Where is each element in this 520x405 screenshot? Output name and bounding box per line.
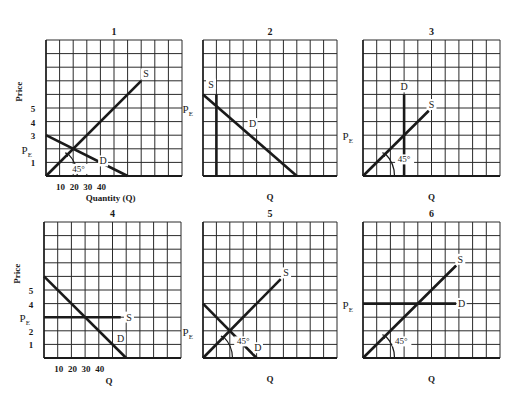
x-tick-label: 20: [70, 182, 80, 192]
supply-label: S: [457, 254, 463, 265]
supply-curve: [46, 81, 141, 176]
supply-label: S: [126, 312, 132, 323]
panel-1: 145°SD543PE1Price10203040Quantity (Q): [14, 26, 182, 203]
x-tick-label: 10: [54, 364, 64, 374]
x-axis-label: Q: [266, 374, 273, 384]
panel-title: 6: [429, 208, 434, 219]
angle-arc-icon: [385, 154, 394, 176]
x-tick-label: 40: [95, 364, 105, 374]
demand-label: D: [400, 81, 407, 92]
x-tick-label: 40: [97, 182, 107, 192]
panel-5: 545°SDPEQ: [183, 208, 337, 384]
panel-2: 2SDPEQ: [183, 26, 337, 202]
y-axis-label: Price: [14, 82, 24, 102]
supply-label: S: [208, 79, 214, 90]
pe-label: PE: [22, 144, 32, 159]
supply-curve: [363, 111, 429, 176]
angle-arc-icon: [224, 337, 233, 358]
x-axis-label: Quantity (Q): [86, 193, 136, 203]
panel-title: 3: [429, 26, 434, 37]
y-tick-label: 5: [31, 104, 36, 114]
demand-label: D: [117, 333, 124, 344]
panel-title: 5: [268, 208, 273, 219]
angle-label: 45°: [72, 164, 85, 174]
angle-label: 45°: [237, 336, 250, 346]
grid: [203, 40, 337, 176]
x-tick-label: 30: [83, 182, 93, 192]
angle-label: 45°: [395, 336, 408, 346]
demand-label: D: [100, 155, 107, 166]
x-tick-label: 30: [82, 364, 92, 374]
panel-3: 345°SDPEQ: [343, 26, 500, 202]
demand-label: D: [458, 298, 465, 309]
y-tick-label: 5: [29, 286, 34, 296]
grid: [44, 222, 181, 358]
pe-subscript: E: [189, 333, 193, 341]
supply-label: S: [429, 99, 435, 110]
pe-label: PE: [343, 130, 353, 145]
pe-label: PE: [183, 326, 193, 341]
y-axis-label: Price: [12, 264, 22, 284]
angle-label: 45°: [398, 154, 411, 164]
panel-title: 1: [112, 26, 117, 37]
supply-label: S: [283, 267, 289, 278]
x-tick-label: 10: [56, 182, 66, 192]
panel-6: 645°SDPEQ: [343, 208, 500, 384]
pe-subscript: E: [349, 306, 353, 314]
y-tick-label: 1: [31, 158, 36, 168]
pe-subscript: E: [349, 137, 353, 145]
x-axis-label: Q: [266, 192, 273, 202]
y-tick-label: 1: [29, 340, 34, 350]
x-axis-label: Q: [428, 374, 435, 384]
y-tick-label: 3: [31, 131, 36, 141]
x-tick-label: 20: [68, 364, 78, 374]
panel-title: 2: [268, 26, 273, 37]
x-axis-label: Q: [428, 192, 435, 202]
y-tick-label: 4: [31, 118, 36, 128]
y-tick-label: 4: [29, 300, 34, 310]
y-tick-label: 2: [29, 327, 34, 337]
figure-six-supply-demand-panels: 145°SD543PE1Price10203040Quantity (Q)2SD…: [0, 0, 520, 405]
demand-label: D: [254, 342, 261, 353]
pe-label: PE: [20, 312, 30, 327]
pe-label: PE: [183, 103, 193, 118]
pe-label: PE: [343, 299, 353, 314]
figure-canvas: 145°SD543PE1Price10203040Quantity (Q)2SD…: [0, 0, 520, 405]
panel-title: 4: [110, 208, 115, 219]
x-axis-label: Q: [106, 376, 113, 386]
supply-label: S: [143, 68, 149, 79]
demand-label: D: [249, 118, 256, 129]
pe-subscript: E: [189, 110, 193, 118]
panel-4: 4SD54PE21Price10203040Q: [12, 208, 181, 386]
